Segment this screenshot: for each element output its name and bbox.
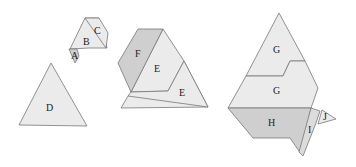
label-e1: E xyxy=(154,63,160,74)
shapes-diagram: B C A D F E E G G H I J xyxy=(0,0,356,167)
face-d xyxy=(19,63,87,126)
label-e2: E xyxy=(179,87,185,98)
group-abc: B C A xyxy=(69,18,108,63)
label-h: H xyxy=(268,117,275,128)
label-f: F xyxy=(135,48,141,59)
label-g2: G xyxy=(273,85,280,96)
label-d: D xyxy=(46,102,53,113)
group-gghij: G G H I J xyxy=(228,13,336,156)
group-d: D xyxy=(19,63,87,126)
label-b: B xyxy=(83,36,90,47)
group-fee: F E E xyxy=(118,29,208,108)
face-j xyxy=(318,110,336,124)
label-i: I xyxy=(308,124,311,135)
label-c: C xyxy=(94,25,101,36)
label-j: J xyxy=(323,111,327,122)
face-h xyxy=(228,108,311,154)
label-g1: G xyxy=(273,44,280,55)
label-a: A xyxy=(71,50,79,61)
